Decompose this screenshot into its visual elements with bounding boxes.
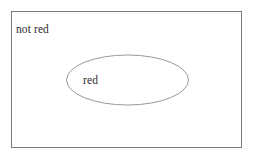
- diagram-canvas: not red red: [0, 0, 255, 162]
- set-label-red: red: [83, 74, 98, 86]
- euler-diagram: not red red: [0, 0, 255, 162]
- universe-label: not red: [16, 23, 49, 35]
